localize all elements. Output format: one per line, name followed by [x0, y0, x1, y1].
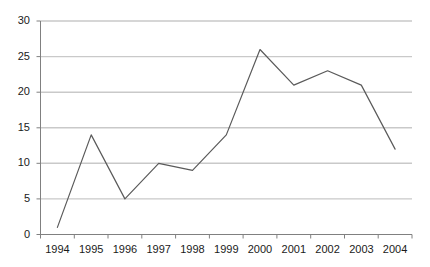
x-axis-tick-label: 2001: [277, 244, 311, 255]
x-axis-tick-label: 2003: [345, 244, 379, 255]
x-axis-tick-label: 1999: [209, 244, 243, 255]
line-chart: 051015202530 199419951996199719981999200…: [0, 0, 430, 267]
x-axis-ticks: [41, 235, 413, 239]
x-axis-tick-label: 1994: [41, 244, 75, 255]
y-axis-tick-label: 15: [2, 122, 30, 133]
x-axis-tick-label: 2000: [243, 244, 277, 255]
x-axis-tick-label: 1996: [108, 244, 142, 255]
y-axis-ticks: [37, 21, 41, 235]
x-axis-tick-label: 1997: [142, 244, 176, 255]
data-series-line: [57, 50, 395, 228]
y-axis-tick-label: 20: [2, 86, 30, 97]
x-axis-tick-label: 1995: [74, 244, 108, 255]
y-axis-tick-label: 30: [2, 15, 30, 26]
chart-plot-area: [0, 0, 430, 267]
x-axis-tick-label: 1998: [176, 244, 210, 255]
gridlines: [41, 21, 413, 199]
y-axis-tick-label: 0: [2, 229, 30, 240]
y-axis-tick-label: 25: [2, 51, 30, 62]
x-axis-tick-label: 2004: [378, 244, 412, 255]
y-axis-tick-label: 5: [2, 193, 30, 204]
x-axis-tick-label: 2002: [311, 244, 345, 255]
y-axis-tick-label: 10: [2, 157, 30, 168]
